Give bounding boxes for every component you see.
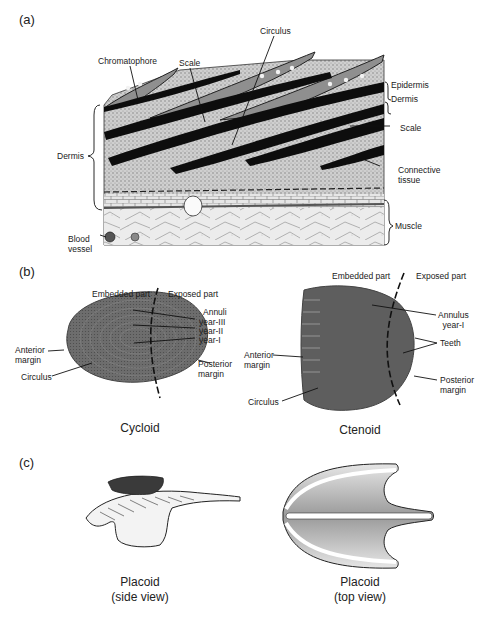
placoid-top-view bbox=[283, 464, 434, 568]
blood-line1: Blood bbox=[68, 234, 92, 244]
label-scale-right: Scale bbox=[400, 123, 421, 133]
placoid-side-view bbox=[86, 476, 240, 547]
cycloid-year1-label: year-I bbox=[199, 335, 221, 345]
connective-line2: tissue bbox=[398, 175, 441, 185]
ctenoid-annulus-label: Annulus year-I bbox=[438, 310, 469, 330]
cycloid-annuli-label: Annuli bbox=[203, 307, 227, 317]
panel-label-a: (a) bbox=[19, 12, 35, 27]
cycloid-caption: Cycloid bbox=[100, 421, 180, 436]
top-caption-line2: (top view) bbox=[315, 590, 405, 605]
label-dermis-left: Dermis bbox=[57, 151, 84, 161]
posterior-line1: Posterior bbox=[440, 375, 474, 385]
cycloid-anterior-margin-label: Anterior margin bbox=[15, 345, 45, 365]
figure-illustrations bbox=[0, 0, 481, 617]
top-caption-line1: Placoid bbox=[315, 575, 405, 590]
posterior-line2: margin bbox=[198, 369, 232, 379]
anterior-line1: Anterior bbox=[15, 345, 45, 355]
cycloid-circulus-label: Circulus bbox=[21, 372, 52, 382]
cycloid-embedded-label: Embedded part bbox=[92, 289, 150, 299]
ctenoid-scale bbox=[301, 273, 414, 410]
anterior-line2: margin bbox=[244, 360, 274, 370]
label-connective-tissue: Connective tissue bbox=[398, 165, 441, 185]
connective-line1: Connective bbox=[398, 165, 441, 175]
posterior-line2: margin bbox=[440, 385, 474, 395]
cycloid-exposed-label: Exposed part bbox=[168, 289, 218, 299]
blood-line2: vessel bbox=[68, 244, 92, 254]
label-circulus-a: Circulus bbox=[260, 26, 291, 36]
label-chromatophore: Chromatophore bbox=[98, 56, 157, 66]
panel-label-b: (b) bbox=[19, 264, 35, 279]
annulus-line2: year-I bbox=[438, 320, 469, 330]
anterior-line2: margin bbox=[15, 355, 45, 365]
side-caption-line1: Placoid bbox=[95, 575, 185, 590]
label-scale-top: Scale bbox=[179, 58, 200, 68]
ctenoid-circulus-label: Circulus bbox=[248, 397, 279, 407]
ctenoid-exposed-label: Exposed part bbox=[416, 271, 466, 281]
anterior-line1: Anterior bbox=[244, 350, 274, 360]
placoid-top-caption: Placoid (top view) bbox=[315, 575, 405, 605]
label-dermis-right: Dermis bbox=[391, 94, 418, 104]
label-muscle: Muscle bbox=[395, 221, 422, 231]
cycloid-posterior-margin-label: Posterior margin bbox=[198, 359, 232, 379]
panel-label-c: (c) bbox=[19, 455, 34, 470]
annulus-line1: Annulus bbox=[438, 310, 469, 320]
placoid-side-caption: Placoid (side view) bbox=[95, 575, 185, 605]
ctenoid-embedded-label: Embedded part bbox=[332, 271, 390, 281]
side-caption-line2: (side view) bbox=[95, 590, 185, 605]
ctenoid-posterior-margin-label: Posterior margin bbox=[440, 375, 474, 395]
label-blood-vessel: Blood vessel bbox=[68, 234, 92, 254]
ctenoid-caption: Ctenoid bbox=[320, 423, 400, 438]
ctenoid-teeth-label: Teeth bbox=[440, 338, 461, 348]
posterior-line1: Posterior bbox=[198, 359, 232, 369]
ctenoid-anterior-margin-label: Anterior margin bbox=[244, 350, 274, 370]
label-epidermis: Epidermis bbox=[391, 80, 429, 90]
skin-cross-section bbox=[104, 52, 384, 245]
